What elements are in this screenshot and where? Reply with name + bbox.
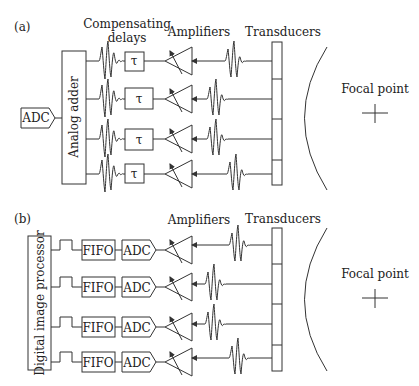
amplifier-icon [165,273,192,301]
compensating-delays-label: Compensating [83,17,171,31]
channel-row-a: τ [86,41,272,79]
analog-adder-label: Analog adder [67,76,81,159]
transducer-array-b [272,228,282,371]
fifo-label: FIFO [82,244,113,258]
amplifier-icon [165,47,192,75]
channel-row-b: FIFO ADC [51,338,272,376]
digital-pulse-icon [51,317,82,327]
amplifier-icon [165,85,192,113]
focal-point-label-a: Focal point [341,82,409,96]
channel-row-a: τ [86,119,272,157]
channel-row-b: FIFO ADC [51,225,272,264]
focal-point-cross-b [362,289,388,308]
amplifier-icon [165,125,192,153]
wavefront-arc-b [305,228,328,371]
channel-row-a: τ [86,79,272,117]
amplifier-icon [165,348,192,376]
focal-point-cross-a [362,104,388,123]
panel-a-label: (a) [14,20,31,34]
channel-row-b: FIFO ADC [51,264,272,301]
adc-label-a: ADC [21,111,49,125]
wavefront-arc-a [305,47,328,190]
digital-pulse-icon [51,352,82,362]
amplifier-icon [165,313,192,341]
transducer-array-a [272,42,282,185]
adc-label-b: ADC [122,321,150,335]
adc-label-b: ADC [122,281,150,295]
panel-a: (a) Compensating delays Amplifiers Trans… [14,17,409,192]
compensating-delays-label-2: delays [108,31,147,45]
tau-symbol: τ [131,167,138,181]
panel-b: (b) Amplifiers Transducers Digital image… [14,212,409,376]
adc-label-b: ADC [122,244,150,258]
adc-label-b: ADC [122,356,150,370]
tau-symbol: τ [136,92,143,106]
amplifiers-label-b: Amplifiers [167,213,230,227]
channel-row-a: τ [86,154,272,192]
tau-symbol: τ [131,54,138,68]
tau-symbol: τ [136,133,143,147]
focal-point-label-b: Focal point [341,267,409,281]
transducers-label-b: Transducers [245,212,321,226]
amplifier-icon [165,160,192,188]
digital-pulse-icon [51,240,82,250]
fifo-label: FIFO [82,321,113,335]
amplifiers-label-a: Amplifiers [167,25,230,39]
channel-row-b: FIFO ADC [51,304,272,341]
fifo-label: FIFO [82,281,113,295]
digital-image-processor-label: Digital image processor [33,230,47,376]
fifo-label: FIFO [82,356,113,370]
panel-b-label: (b) [14,212,31,226]
amplifier-icon [165,236,192,264]
digital-pulse-icon [51,277,82,287]
transducers-label-a: Transducers [245,25,321,39]
